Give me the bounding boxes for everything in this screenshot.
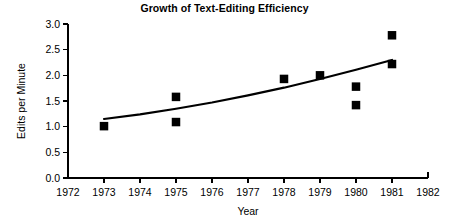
data-point [316,71,325,80]
data-point [172,118,181,127]
data-point [172,93,181,102]
x-tick-label: 1972 [56,186,80,198]
x-tick-label: 1974 [128,186,152,198]
y-tick-label: 0.0 [45,172,60,184]
x-tick-label: 1975 [164,186,188,198]
x-tick-label: 1976 [200,186,224,198]
y-axis: 0.00.51.01.52.02.53.0 [45,18,68,184]
data-point [280,75,289,84]
data-point [100,122,109,130]
x-tick-label: 1980 [344,186,368,198]
data-point [388,31,397,40]
x-tick-label: 1981 [380,186,404,198]
x-axis: 1972197319741975197619771978197919801981… [56,172,440,198]
data-point [352,101,361,110]
x-tick-label: 1982 [416,186,440,198]
y-tick-label: 3.0 [45,18,60,30]
x-tick-label: 1973 [92,186,116,198]
x-tick-label: 1979 [308,186,332,198]
scatter-plot: 0.00.51.01.52.02.53.0 197219731974197519… [0,0,449,223]
chart-figure: Growth of Text-Editing Efficiency 0.00.5… [0,0,449,223]
y-tick-label: 2.0 [45,69,60,81]
x-tick-label: 1977 [236,186,260,198]
x-axis-title: Year [237,205,259,217]
x-tick-label: 1978 [272,186,296,198]
y-tick-label: 1.5 [45,95,60,107]
data-point [388,60,397,69]
trend-line [104,60,392,119]
y-tick-label: 2.5 [45,43,60,55]
data-markers [100,31,397,130]
y-tick-label: 0.5 [45,146,60,158]
data-point [352,82,361,91]
y-axis-title: Edits per Minute [15,63,27,139]
y-tick-label: 1.0 [45,120,60,132]
